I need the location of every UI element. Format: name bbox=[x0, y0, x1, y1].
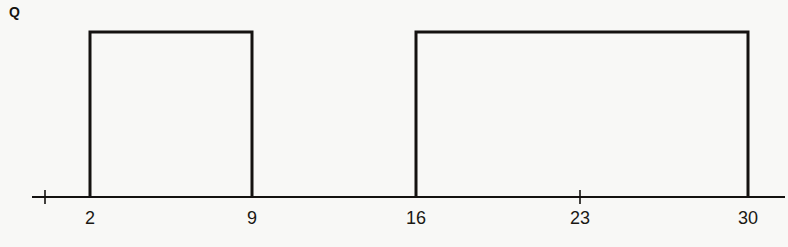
tick-label-9: 9 bbox=[247, 209, 257, 227]
signal-name-label: Q bbox=[9, 5, 20, 19]
q-waveform-trace bbox=[90, 32, 748, 197]
waveform-plot bbox=[0, 0, 788, 247]
pulse-1 bbox=[90, 32, 252, 197]
waveform-figure: Q 29162330 bbox=[0, 0, 788, 247]
pulse-2 bbox=[416, 32, 748, 197]
tick-label-2: 2 bbox=[85, 209, 95, 227]
tick-label-30: 30 bbox=[738, 209, 758, 227]
tick-label-23: 23 bbox=[570, 209, 590, 227]
tick-label-16: 16 bbox=[406, 209, 426, 227]
